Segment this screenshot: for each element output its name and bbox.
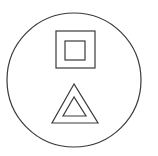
inner-triangle-icon <box>63 97 86 116</box>
outer-square-icon <box>56 31 95 68</box>
inner-square-icon <box>65 41 85 60</box>
outer-circle-icon <box>7 13 141 147</box>
outer-triangle-icon <box>52 84 98 123</box>
symbol-graphic <box>0 0 158 156</box>
